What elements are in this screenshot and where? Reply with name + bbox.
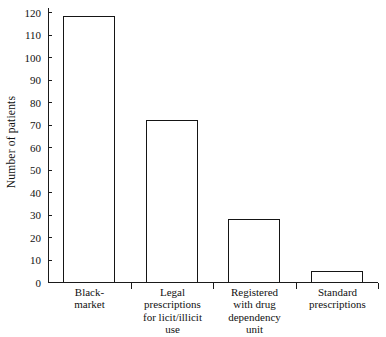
y-tick-label: 110 [25, 30, 41, 41]
y-tick-label: 30 [30, 210, 41, 221]
y-tick-label: 100 [25, 52, 42, 63]
y-tick: 0 [48, 282, 52, 283]
y-tick-label: 120 [25, 7, 42, 18]
y-tick-label: 20 [30, 232, 41, 243]
y-tick-mark [48, 192, 52, 193]
bar [311, 271, 363, 282]
x-category-label: Legalprescriptionsfor licit/illicituse [131, 286, 214, 336]
x-axis-category-labels: Black-marketLegalprescriptionsfor licit/… [48, 286, 378, 337]
y-tick-mark [48, 237, 52, 238]
x-category-label-line: Legal [131, 286, 214, 298]
y-tick-mark [48, 102, 52, 103]
x-category-label-line: Registered [213, 286, 296, 298]
y-tick: 20 [48, 237, 52, 238]
y-tick-label: 50 [30, 165, 41, 176]
y-tick-mark [48, 282, 52, 283]
y-tick-mark [48, 147, 52, 148]
y-axis-title-text: Number of patients [5, 95, 17, 187]
y-tick-mark [48, 57, 52, 58]
x-category-label-line: market [48, 298, 131, 310]
y-tick-mark [48, 125, 52, 126]
y-tick-mark [48, 80, 52, 81]
y-tick: 60 [48, 147, 52, 148]
x-category-label-line: dependency [213, 311, 296, 323]
x-category-label-line: prescriptions [131, 298, 214, 310]
x-category-label: Standardprescriptions [296, 286, 379, 311]
y-tick-label: 70 [30, 120, 41, 131]
y-tick-label: 60 [30, 142, 41, 153]
x-category-label: Registeredwith drugdependencyunit [213, 286, 296, 336]
x-category-label-line: use [131, 323, 214, 335]
y-tick-mark [48, 35, 52, 36]
y-tick-label: 80 [30, 97, 41, 108]
x-category-label-line: Standard [296, 286, 379, 298]
x-category-label-line: with drug [213, 298, 296, 310]
y-tick-label: 40 [30, 187, 41, 198]
y-tick-label: 90 [30, 75, 41, 86]
y-tick-mark [48, 215, 52, 216]
x-category-label-line: prescriptions [296, 298, 379, 310]
y-axis-title: Number of patients [0, 0, 22, 283]
y-tick: 30 [48, 215, 52, 216]
y-tick: 110 [48, 35, 52, 36]
bar [146, 120, 198, 282]
y-tick-label: 0 [36, 277, 42, 288]
plot-area: 0102030405060708090100110120 [48, 8, 378, 283]
y-tick: 50 [48, 170, 52, 171]
x-category-label: Black-market [48, 286, 131, 311]
x-category-label-line: for licit/illicit [131, 311, 214, 323]
y-tick-label: 10 [30, 255, 41, 266]
bar [63, 16, 115, 282]
y-tick-mark [48, 260, 52, 261]
y-tick: 40 [48, 192, 52, 193]
x-category-label-line: Black- [48, 286, 131, 298]
y-axis-line [48, 8, 49, 283]
bar-chart-figure: Number of patients 010203040506070809010… [0, 0, 386, 337]
y-tick-mark [48, 12, 52, 13]
y-tick-mark [48, 170, 52, 171]
bar [228, 219, 280, 282]
y-tick: 80 [48, 102, 52, 103]
y-tick: 70 [48, 125, 52, 126]
y-tick: 120 [48, 12, 52, 13]
y-tick: 10 [48, 260, 52, 261]
y-tick: 90 [48, 80, 52, 81]
x-category-label-line: unit [213, 323, 296, 335]
y-tick: 100 [48, 57, 52, 58]
